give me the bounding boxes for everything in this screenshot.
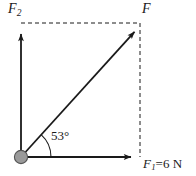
vector-label-f1-unit-text: N xyxy=(173,156,182,171)
vector-label-f2-symbol: F xyxy=(8,1,17,16)
vector-label-f: F xyxy=(142,2,151,16)
vector-f-resultant-arrow xyxy=(21,32,135,157)
vector-label-f2-subscript: 2 xyxy=(17,8,22,18)
angle-label-text: 53° xyxy=(51,128,69,143)
origin-dot xyxy=(14,150,27,163)
vector-label-f-symbol: F xyxy=(142,1,151,16)
vector-label-f2: F2 xyxy=(8,2,22,18)
force-vector-diagram: F2 F 53° F1=6 N xyxy=(0,0,196,176)
diagram-canvas xyxy=(0,0,196,176)
angle-arc xyxy=(41,135,51,157)
angle-label: 53° xyxy=(51,129,69,142)
vector-label-f1-value: =6 xyxy=(156,156,170,171)
vector-label-f1: F1=6 N xyxy=(143,157,182,172)
vector-label-f1-symbol: F xyxy=(143,156,151,171)
